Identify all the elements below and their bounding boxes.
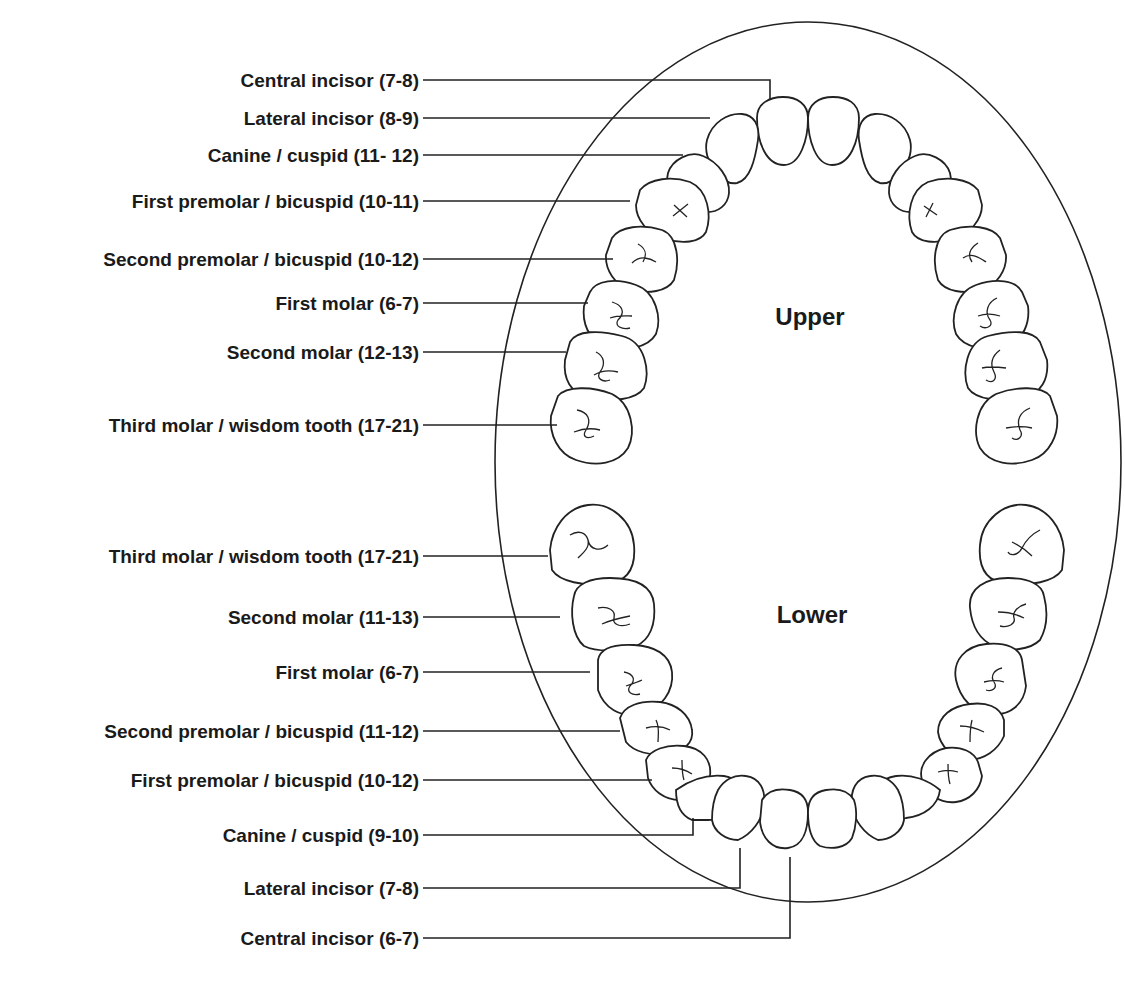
lower-labels: Third molar / wisdom tooth (17-21) Secon… [104, 546, 419, 949]
lower-central-incisor-right-icon [808, 789, 856, 848]
lower-arch-title: Lower [777, 601, 848, 628]
label-upper-lateral-incisor: Lateral incisor (8-9) [244, 108, 419, 129]
dental-eruption-diagram: Upper Lower [0, 0, 1125, 990]
lower-third-molar-left-icon [550, 505, 634, 585]
label-upper-first-premolar: First premolar / bicuspid (10-11) [132, 191, 419, 212]
label-lower-first-molar: First molar (6-7) [275, 662, 419, 683]
label-lower-lateral-incisor: Lateral incisor (7-8) [244, 878, 419, 899]
leader-lower-central-incisor [423, 857, 790, 938]
label-upper-first-molar: First molar (6-7) [275, 293, 419, 314]
label-lower-central-incisor: Central incisor (6-7) [241, 928, 419, 949]
lower-first-molar-right-icon [955, 644, 1026, 715]
label-upper-second-premolar: Second premolar / bicuspid (10-12) [103, 249, 419, 270]
upper-arch [551, 97, 1058, 464]
leader-lower-canine [423, 818, 693, 835]
label-lower-second-molar: Second molar (11-13) [228, 607, 419, 628]
upper-arch-title: Upper [775, 303, 844, 330]
lower-arch [550, 505, 1064, 849]
lower-second-molar-right-icon [970, 578, 1047, 649]
upper-third-molar-left-icon [551, 388, 632, 463]
upper-central-incisor-left-icon [757, 97, 808, 165]
upper-central-incisor-right-icon [808, 97, 859, 165]
label-upper-central-incisor: Central incisor (7-8) [241, 70, 419, 91]
upper-third-molar-right-icon [976, 388, 1057, 463]
leader-upper-central-incisor [423, 80, 770, 100]
label-lower-canine: Canine / cuspid (9-10) [223, 825, 419, 846]
label-lower-third-molar: Third molar / wisdom tooth (17-21) [109, 546, 419, 567]
upper-labels: Central incisor (7-8) Lateral incisor (8… [103, 70, 419, 436]
label-lower-second-premolar: Second premolar / bicuspid (11-12) [104, 721, 419, 742]
lower-third-molar-right-icon [980, 505, 1064, 585]
label-upper-canine: Canine / cuspid (11- 12) [208, 145, 419, 166]
lower-second-molar-left-icon [572, 578, 654, 651]
leader-lower-lateral-incisor [423, 848, 740, 888]
lower-central-incisor-left-icon [760, 789, 808, 848]
label-upper-third-molar: Third molar / wisdom tooth (17-21) [109, 415, 419, 436]
label-upper-second-molar: Second molar (12-13) [227, 342, 419, 363]
label-lower-first-premolar: First premolar / bicuspid (10-12) [131, 770, 419, 791]
